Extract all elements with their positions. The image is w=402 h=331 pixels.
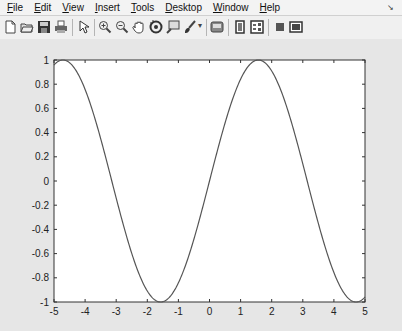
brush-dropdown-icon[interactable]: ▾ (198, 21, 202, 30)
y-tick-label: -0.8 (32, 272, 50, 283)
figure-toolbar: ▾ (0, 15, 402, 40)
x-tick-label: -5 (50, 306, 59, 317)
toolbar-separator (268, 19, 269, 36)
x-tick-label: 5 (362, 306, 368, 317)
menu-view[interactable]: View (62, 2, 84, 13)
y-tick-label: -0.4 (32, 224, 50, 235)
new-figure-icon[interactable] (3, 20, 17, 34)
edit-plot-pointer-icon[interactable] (77, 20, 91, 34)
x-tick-label: 1 (238, 306, 244, 317)
zoom-in-icon[interactable] (98, 20, 112, 34)
y-tick-label: 1 (43, 55, 49, 66)
y-tick-label: -0.6 (32, 248, 50, 259)
show-plot-tools-icon[interactable] (289, 20, 303, 34)
y-tick-label: 0 (43, 176, 49, 187)
x-tick-label: -4 (81, 306, 90, 317)
insert-colorbar-icon[interactable] (233, 20, 247, 34)
figure-canvas[interactable]: -5-4-3-2-1012345-1-0.8-0.6-0.4-0.200.20.… (0, 39, 402, 331)
y-tick-label: -1 (40, 297, 49, 308)
hide-plot-tools-icon[interactable] (273, 20, 287, 34)
toolbar-separator (228, 19, 229, 36)
link-plot-icon[interactable] (210, 20, 224, 34)
x-tick-label: 0 (207, 306, 213, 317)
y-tick-label: 0.6 (35, 103, 49, 114)
pan-hand-icon[interactable] (132, 20, 146, 34)
x-tick-label: 2 (269, 306, 275, 317)
x-tick-label: 3 (300, 306, 306, 317)
x-tick-label: -2 (143, 306, 152, 317)
print-icon[interactable] (54, 20, 68, 34)
open-file-icon[interactable] (20, 20, 34, 34)
dock-arrow-icon[interactable]: ↘ (387, 3, 394, 12)
menu-insert[interactable]: Insert (95, 2, 120, 13)
brush-icon[interactable] (183, 20, 197, 34)
save-icon[interactable] (37, 20, 51, 34)
menu-desktop[interactable]: Desktop (165, 2, 202, 13)
rotate-3d-icon[interactable] (149, 20, 163, 34)
toolbar-separator (72, 19, 73, 36)
menu-help[interactable]: Help (260, 2, 281, 13)
y-tick-label: 0.2 (35, 151, 49, 162)
y-tick-label: -0.2 (32, 200, 50, 211)
menu-bar: FileEditViewInsertToolsDesktopWindowHelp (0, 0, 402, 15)
toolbar-separator (94, 19, 95, 36)
insert-legend-icon[interactable] (250, 20, 264, 34)
menu-edit[interactable]: Edit (34, 2, 51, 13)
zoom-out-icon[interactable] (115, 20, 129, 34)
data-cursor-icon[interactable] (166, 20, 180, 34)
x-tick-label: -3 (112, 306, 121, 317)
toolbar-separator (206, 19, 207, 36)
y-tick-label: 0.4 (35, 127, 49, 138)
menu-tools[interactable]: Tools (131, 2, 154, 13)
y-tick-label: 0.8 (35, 79, 49, 90)
sine-plot[interactable]: -5-4-3-2-1012345-1-0.8-0.6-0.4-0.200.20.… (0, 39, 402, 331)
menu-window[interactable]: Window (213, 2, 249, 13)
menu-file[interactable]: File (7, 2, 23, 13)
x-tick-label: -1 (174, 306, 183, 317)
x-tick-label: 4 (331, 306, 337, 317)
